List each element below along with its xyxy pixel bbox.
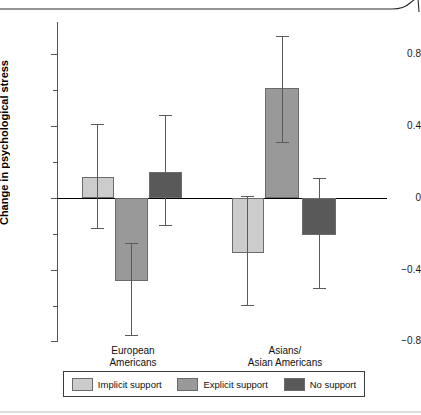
legend-swatch-no-support [284,378,305,391]
errorbar-cap-bottom-european-nosupport [159,225,172,226]
errorbar-line-asian-implicit [247,196,248,305]
group-label-asian-line2: Asian Americans [230,357,340,369]
group-label-european-line2: Americans [88,357,178,369]
y-tick-minor--0.2 [53,234,57,235]
errorbar-cap-top-asian-implicit [241,196,254,197]
errorbar-cap-top-asian-nosupport [313,178,326,179]
errorbar-cap-bottom-european-explicit [125,335,138,336]
legend: Implicit support Explicit support No sup… [63,371,365,397]
legend-label-explicit-support: Explicit support [203,379,267,390]
group-label-european: European Americans [88,345,178,369]
legend-label-implicit-support: Implicit support [98,379,162,390]
y-tick-0.4 [51,126,57,127]
y-tick-minor--0.6 [53,306,57,307]
y-tick--0.4 [51,270,57,271]
y-tick--0.8 [51,341,57,342]
legend-item-no-support: No support [284,378,356,391]
y-axis-title: Change in psychological stress [0,60,10,225]
y-tick-label-0: 0 [385,193,421,203]
y-tick-label-0.4: 0.4 [385,121,421,131]
figure-bar-chart: 0.8 0.4 0 −0.4 −0.8 Change in psychologi… [0,0,421,415]
errorbar-line-european-explicit [131,243,132,335]
errorbar-cap-bottom-european-implicit [91,228,104,229]
y-tick-label--0.8: −0.8 [385,336,421,346]
page-edge-decoration [0,0,421,415]
legend-swatch-explicit-support [177,378,198,391]
errorbar-line-asian-nosupport [319,178,320,288]
bar-european-implicit [82,177,114,198]
y-tick-minor-0.2 [53,162,57,163]
errorbar-cap-top-european-explicit [125,243,138,244]
errorbar-cap-bottom-asian-implicit [241,305,254,306]
errorbar-cap-bottom-asian-nosupport [313,288,326,289]
y-tick-0 [51,198,57,199]
errorbar-line-european-nosupport [165,115,166,225]
y-tick-0.8 [51,54,57,55]
y-tick-label-0.8: 0.8 [385,49,421,59]
y-tick-minor-0.6 [53,90,57,91]
legend-label-no-support: No support [310,379,356,390]
errorbar-cap-top-asian-explicit [276,36,289,37]
errorbar-line-asian-explicit [282,36,283,142]
legend-swatch-implicit-support [72,378,93,391]
group-label-asian-line1: Asians/ [230,345,340,357]
group-label-asian: Asians/ Asian Americans [230,345,340,369]
group-label-european-line1: European [88,345,178,357]
errorbar-cap-top-european-implicit [91,124,104,125]
y-axis-line [57,22,58,342]
errorbar-line-european-implicit [97,124,98,228]
zero-baseline [57,198,387,199]
legend-item-implicit-support: Implicit support [72,378,162,391]
y-tick-label--0.4: −0.4 [385,265,421,275]
legend-item-explicit-support: Explicit support [177,378,267,391]
errorbar-cap-top-european-nosupport [159,115,172,116]
bar-asian-implicit [232,198,264,253]
errorbar-cap-bottom-asian-explicit [276,142,289,143]
